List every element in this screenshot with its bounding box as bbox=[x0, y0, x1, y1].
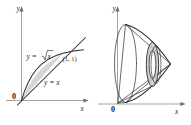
line-curve bbox=[18, 38, 86, 106]
right-origin-label: 0 bbox=[111, 105, 115, 114]
left-origin-label: 0 bbox=[12, 92, 16, 101]
right-panel-solid: y x 0 bbox=[98, 5, 186, 116]
washer-rim-ellipse bbox=[151, 46, 161, 84]
intersection-point-label: (1, 1) bbox=[63, 55, 77, 63]
right-x-axis-label: x bbox=[174, 108, 179, 116]
line-curve-label: y = x bbox=[43, 78, 60, 87]
sqrt-radicand-text: x bbox=[47, 52, 52, 61]
left-x-axis-label: x bbox=[80, 105, 85, 113]
figure-canvas: y x 0 y = x y = x (1, 1) bbox=[0, 0, 191, 125]
sqrt-curve-label: y = x bbox=[26, 51, 54, 61]
left-panel-region-plot: y x 0 y = x y = x (1, 1) bbox=[6, 5, 89, 113]
left-x-axis bbox=[6, 99, 89, 103]
calculus-figure: y x 0 y = x y = x (1, 1) bbox=[0, 0, 191, 125]
sqrt-curve-label-text: y = bbox=[26, 52, 37, 61]
outer-opening-ellipse bbox=[115, 25, 137, 103]
left-y-axis bbox=[19, 6, 23, 100]
